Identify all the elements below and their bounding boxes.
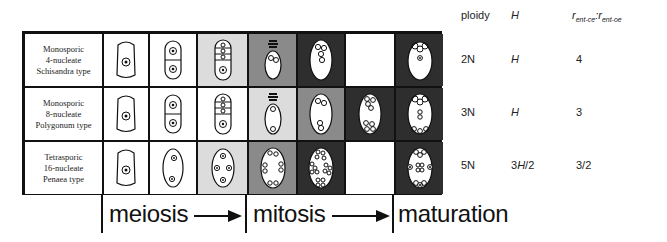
one-nucleus-cell-icon [113,39,139,81]
four-nucleate-sac-icon [307,37,335,83]
ratio-sub1: ent-ce [576,16,595,23]
row-label-penaea: Tetrasporic 16-nucleate Penaea type [25,142,102,194]
stage-cell [298,34,344,86]
two-nucleate-sac-icon [261,38,285,82]
label-line: 4-nucleate [46,55,81,66]
phase-label: maturation [398,200,508,227]
stage-cell [198,88,247,140]
row-label-schisandra: Monosporic 4-nucleate Schisandra type [25,34,102,86]
row-label-polygonum: Monosporic 8-nucleate Polygonum type [25,88,102,140]
one-nucleus-cell-icon [113,93,139,135]
arrow-right-icon [332,209,390,223]
stage-cell [249,34,296,86]
header-ploidy: ploidy [461,9,490,21]
stage-cell [346,88,394,140]
stage-cell-empty [346,34,394,86]
sixteen-nucleate-sac-icon [306,145,336,191]
stage-cell [150,88,196,140]
label-line: 8-nucleate [46,109,81,120]
row2-ploidy: 3N [461,106,475,118]
row1-ploidy: 2N [461,53,475,65]
phase-label: meiosis [109,200,188,227]
label-line: 16-nucleate [44,163,84,174]
label-line: Monosporic [43,98,84,109]
row2-h: H [511,106,519,118]
mature-sac-icon [405,37,435,83]
row3-h: 3H/2 [511,159,534,171]
stage-cell [104,34,148,86]
phase-meiosis: meiosis [109,200,242,228]
two-nucleate-sac-icon [261,91,285,137]
row3-ploidy: 5N [461,159,475,171]
stage-cell [298,88,344,140]
stage-cell [249,88,296,140]
eight-nucleate-sac-icon [356,91,384,137]
label-line: Tetrasporic [44,152,82,163]
h-var: H [517,159,525,171]
stage-cell [104,88,148,140]
eight-nucleate-sac-icon [258,145,288,191]
stage-cell [150,142,196,194]
label-line: Schisandra type [36,66,90,77]
dyad-icon [161,39,185,81]
h-den: /2 [525,159,534,171]
row1-ratio: 4 [576,53,582,65]
embryo-sac-development-grid: Monosporic 4-nucleate Schisandra type Mo… [22,31,442,195]
mature-sac-icon [405,91,435,137]
tetrad-icon [211,38,235,82]
phase-maturation: maturation [398,200,508,228]
stage-cell [198,142,247,194]
phase-divider [245,195,247,233]
phase-divider [392,195,394,233]
label-line: Monosporic [43,44,84,55]
four-nucleate-sac-icon [307,91,335,137]
header-h: H [511,9,519,21]
stage-cell [104,142,148,194]
stage-cell [150,34,196,86]
stage-cell [198,34,247,86]
row1-h: H [511,53,519,65]
dyad-icon [161,93,185,135]
stage-cell [396,34,443,86]
phase-divider [101,195,103,233]
row3-ratio: 3/2 [576,159,591,171]
tetrad-icon [211,92,235,136]
row2-ratio: 3 [576,106,582,118]
label-line: Penaea type [43,174,84,185]
stage-cell [298,142,344,194]
stage-cell-empty [346,142,394,194]
phase-label: mitosis [253,200,326,227]
stage-cell [249,142,296,194]
mature-sac-icon [405,145,435,191]
stage-cell [396,142,443,194]
header-ratio: rent-ce:rent-oe [572,9,622,23]
phase-mitosis: mitosis [253,200,390,228]
four-nucleus-cell-icon [209,146,237,190]
stage-cell [396,88,443,140]
two-nucleus-cell-icon [160,146,186,190]
label-line: Polygonum type [36,120,92,131]
one-nucleus-cell-icon [113,147,139,189]
ratio-sub2: ent-oe [602,16,622,23]
arrow-right-icon [194,209,242,223]
